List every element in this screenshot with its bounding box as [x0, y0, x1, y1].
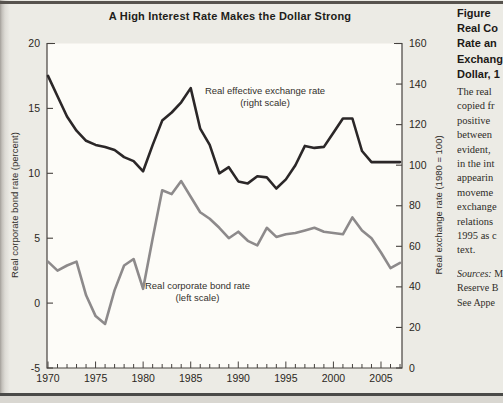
caption-line: The real	[457, 85, 503, 99]
left-axis-tick-label: 10	[28, 167, 40, 179]
right-axis-tick-label: 20	[409, 321, 421, 333]
caption-line: exchange	[457, 200, 503, 214]
chart-canvas: 20151050-5160140120100806040200197019751…	[0, 0, 503, 403]
annotation-bond-rate-line2: (left scale)	[130, 292, 265, 304]
caption-body: The realcopied frpositivebetweenevident,…	[457, 85, 503, 258]
right-axis-tick-label: 160	[409, 37, 427, 49]
caption-line: moveme	[457, 186, 503, 200]
left-axis-tick-label: 0	[34, 297, 40, 309]
figure-panel: A High Interest Rate Makes the Dollar St…	[0, 0, 503, 403]
caption-line: Dollar, 1	[457, 67, 503, 82]
caption-line: See Appe	[457, 296, 503, 311]
x-axis-tick-label: 2005	[369, 372, 393, 384]
right-axis-tick-label: 0	[409, 362, 415, 374]
right-axis-tick-label: 100	[409, 159, 427, 171]
caption-line: appearin	[457, 171, 503, 185]
x-axis-tick-label: 1990	[227, 372, 251, 384]
caption-line: Figure	[457, 6, 503, 21]
x-axis-tick-label: 1975	[84, 372, 108, 384]
sources-rest: M	[492, 268, 503, 279]
left-axis-title: Real corporate bond rate (percent)	[9, 132, 20, 278]
left-axis-tick-label: 15	[28, 102, 40, 114]
left-axis-tick-label: 20	[28, 37, 40, 49]
caption-line: between	[457, 128, 503, 142]
left-axis-tick-label: 5	[34, 232, 40, 244]
caption-line: text.	[457, 243, 503, 257]
caption-line: Reserve B	[457, 281, 503, 296]
caption-line: Rate an	[457, 36, 503, 51]
right-axis-tick-label: 140	[409, 78, 427, 90]
caption-line: copied fr	[457, 99, 503, 113]
x-axis-tick-label: 2000	[322, 372, 346, 384]
caption-line: Exchang	[457, 52, 503, 67]
right-axis-tick-label: 120	[409, 118, 427, 130]
figure-caption-column: FigureReal CoRate anExchangDollar, 1 The…	[457, 6, 503, 386]
below-rule-margin	[0, 396, 503, 403]
annotation-exchange-rate: Real effective exchange rate (right scal…	[185, 85, 345, 109]
right-axis-tick-label: 60	[409, 240, 421, 252]
sources-label: Sources:	[457, 268, 492, 279]
caption-line: relations	[457, 215, 503, 229]
x-axis-tick-label: 1970	[36, 372, 60, 384]
annotation-bond-rate-line1: Real corporate bond rate	[130, 280, 265, 292]
x-axis-tick-label: 1980	[131, 372, 155, 384]
annotation-bond-rate: Real corporate bond rate (left scale)	[130, 280, 265, 304]
x-axis-tick-label: 1985	[179, 372, 203, 384]
annotation-exchange-rate-line2: (right scale)	[185, 97, 345, 109]
caption-sources: Sources: M Reserve BSee Appe	[457, 267, 503, 311]
right-axis-tick-label: 40	[409, 280, 421, 292]
caption-line: Real Co	[457, 21, 503, 36]
caption-line: positive	[457, 114, 503, 128]
caption-line: evident,	[457, 143, 503, 157]
annotation-exchange-rate-line1: Real effective exchange rate	[185, 85, 345, 97]
caption-line: 1995 as c	[457, 229, 503, 243]
x-axis-tick-label: 1995	[274, 372, 298, 384]
caption-heading: FigureReal CoRate anExchangDollar, 1	[457, 6, 503, 82]
caption-sources-line: Sources: M	[457, 267, 503, 282]
right-axis-tick-label: 80	[409, 199, 421, 211]
caption-line: in the int	[457, 157, 503, 171]
right-axis-title: Real exchange rate (1980 = 100)	[433, 135, 444, 274]
